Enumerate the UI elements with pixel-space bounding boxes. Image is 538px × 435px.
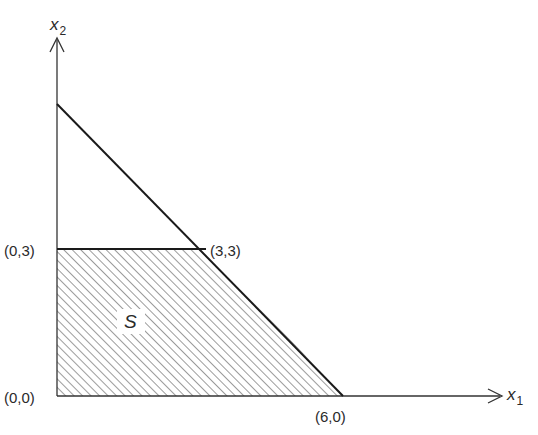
point-label-0-0: (0,0) [4, 389, 35, 406]
x2-axis-label: x2 [49, 15, 67, 38]
region-s-hatched [57, 249, 343, 396]
point-label-0-3: (0,3) [4, 242, 35, 259]
point-label-3-3: (3,3) [210, 242, 241, 259]
x1-axis-label: x1 [506, 385, 524, 408]
point-label-6-0: (6,0) [315, 408, 346, 425]
feasible-region-diagram: x2 x1 (0,3) (3,3) (0,0) (6,0) S [0, 0, 538, 435]
region-label-s: S [124, 311, 137, 332]
